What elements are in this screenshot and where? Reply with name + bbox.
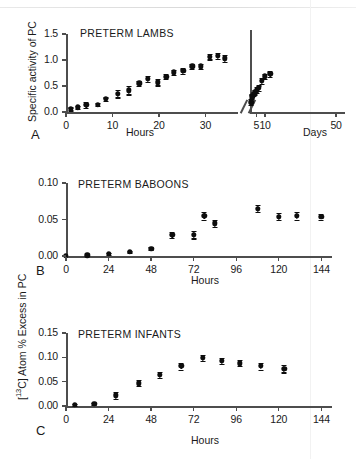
panel-b-error-cap-bottom — [294, 220, 299, 221]
panel-a-x-tick — [65, 113, 66, 117]
panel-b-data-point — [170, 232, 175, 237]
panel-b-error-cap-bottom — [202, 220, 207, 221]
panel-b-preterm-baboons: PRETERM BABOONS B Hours 0.000.050.100244… — [0, 160, 356, 310]
panel-c-data-point — [281, 366, 286, 371]
panel-a-y-tick-label: 0.0 — [24, 105, 58, 117]
panel-c-data-point — [258, 363, 263, 368]
panel-b-x-tick — [65, 257, 66, 261]
panel-b-x-tick — [150, 257, 151, 261]
panel-b-x-tick — [108, 257, 109, 261]
panel-b-data-point — [212, 220, 217, 225]
panel-c-letter: C — [36, 423, 45, 438]
panel-b-x-tick-label: 48 — [131, 263, 171, 275]
panel-c-error-cap-bottom — [136, 386, 141, 387]
panel-a-days-error-cap-bottom — [254, 93, 259, 94]
panel-a-error-cap-bottom — [164, 79, 169, 80]
panel-c-data-point — [179, 363, 184, 368]
panel-b-data-point — [319, 214, 324, 219]
panel-a-error-cap-bottom — [116, 97, 121, 98]
panel-c-data-point — [157, 372, 162, 377]
panel-c-x-tick — [236, 407, 237, 411]
panel-c-y-tick — [62, 332, 66, 333]
panel-a-x-tick — [112, 113, 113, 117]
panel-b-error-cap-bottom — [319, 220, 324, 221]
panel-c-error-cap-bottom — [259, 370, 264, 371]
panel-a-days-error-cap-bottom — [249, 105, 254, 106]
panel-c-x-tick — [108, 407, 109, 411]
panel-c-y-tick-label: 0.10 — [24, 350, 58, 362]
panel-c-x-tick-label: 144 — [301, 413, 341, 425]
panel-a-preterm-lambs: Specific activity of PC PRETERM LAMBS A … — [0, 0, 356, 160]
panel-b-x-tick — [321, 257, 322, 261]
axis-break-slash-1 — [240, 99, 248, 113]
panel-b-x-tick-label: 96 — [216, 263, 256, 275]
panel-c-x-tick-label: 120 — [259, 413, 299, 425]
panel-c-y-axis — [66, 333, 68, 406]
panel-a-error-cap-bottom — [156, 85, 161, 86]
panel-a-y-axis — [66, 34, 68, 112]
panel-a-data-point — [84, 102, 89, 107]
panel-c-x-tick — [278, 407, 279, 411]
panel-a-y-tick — [62, 33, 66, 34]
panel-b-error-cap-bottom — [276, 220, 281, 221]
panel-c-y-tick-label: 0.15 — [24, 326, 58, 338]
panel-a-y-tick-label: 1.0 — [24, 53, 58, 65]
panel-a-data-point — [126, 87, 131, 92]
panel-a-y-tick — [62, 85, 66, 86]
panel-b-y-tick-label: 0.10 — [24, 176, 58, 188]
panel-b-data-point — [294, 213, 299, 218]
panel-b-error-cap-bottom — [255, 212, 260, 213]
panel-a-days-x-tick — [264, 113, 265, 117]
panel-b-x-axis-title: Hours — [165, 274, 245, 286]
panel-b-x-tick-label: 24 — [89, 263, 129, 275]
panel-b-data-point — [276, 214, 281, 219]
panel-a-error-cap-bottom — [181, 74, 186, 75]
panel-b-y-tick — [62, 219, 66, 220]
panel-b-data-point — [255, 206, 260, 211]
panel-a-error-cap-bottom — [171, 75, 176, 76]
panel-c-error-cap-bottom — [179, 370, 184, 371]
panel-a-data-point — [145, 76, 150, 81]
panel-b-error-cap-bottom — [212, 227, 217, 228]
panel-c-data-point — [237, 360, 242, 365]
panel-b-x-axis — [66, 256, 332, 258]
panel-c-title: PRETERM INFANTS — [78, 328, 181, 340]
panel-b-title: PRETERM BABOONS — [78, 178, 189, 190]
panel-c-x-tick-label: 48 — [131, 413, 171, 425]
panel-c-x-tick — [65, 407, 66, 411]
panel-a-data-point — [222, 56, 227, 61]
panel-a-x-tick-label: 0 — [46, 119, 86, 131]
panel-a-days-error-cap-bottom — [256, 91, 261, 92]
panel-c-error-cap-bottom — [157, 378, 162, 379]
panel-b-y-tick-label: 0.00 — [24, 249, 58, 261]
panel-a-x-tick-label: 30 — [185, 119, 225, 131]
panel-b-x-tick-label: 0 — [46, 263, 86, 275]
panel-c-error-cap-bottom — [113, 399, 118, 400]
panel-b-x-tick-label: 144 — [301, 263, 341, 275]
panel-b-x-tick — [236, 257, 237, 261]
panel-c-y-tick-label: 0.05 — [24, 375, 58, 387]
panel-c-data-point — [200, 355, 205, 360]
panel-a-x-tick — [158, 113, 159, 117]
panel-b-x-tick-label: 72 — [174, 263, 214, 275]
panel-a-error-cap-bottom — [137, 86, 142, 87]
panel-c-x-tick-label: 24 — [89, 413, 129, 425]
panel-a-error-cap-bottom — [215, 59, 220, 60]
panel-a-error-cap-bottom — [208, 59, 213, 60]
panel-a-x-axis — [66, 112, 238, 114]
panel-c-x-tick — [150, 407, 151, 411]
panel-a-data-point — [115, 91, 120, 96]
panel-c-data-point — [219, 358, 224, 363]
panel-b-data-point — [202, 213, 207, 218]
panel-a-data-point — [155, 80, 160, 85]
panel-a-days-x-tick — [256, 113, 257, 117]
panel-a-letter: A — [31, 127, 40, 142]
panel-c-error-cap-bottom — [220, 364, 225, 365]
panel-b-y-axis — [66, 183, 68, 256]
panel-c-x-tick — [321, 407, 322, 411]
panel-c-y-tick — [62, 357, 66, 358]
figure-root: [13C] Atom % Excess in PC Specific activ… — [0, 0, 356, 459]
panel-b-x-tick — [193, 257, 194, 261]
panel-a-error-cap-bottom — [145, 82, 150, 83]
panel-c-x-tick-label: 0 — [46, 413, 86, 425]
